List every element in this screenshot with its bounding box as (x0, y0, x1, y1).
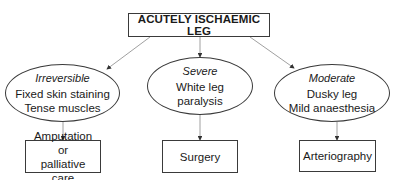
action-box-arteriography: Arteriography (299, 140, 376, 172)
title-box: ACUTELY ISCHAEMIC LEG (128, 13, 270, 37)
category-label: Moderate (309, 71, 355, 85)
sign-text: Fixed skin staining (15, 87, 110, 101)
oval-severe: Severe White leg paralysis (147, 57, 253, 115)
sign-text: White leg (176, 80, 224, 94)
category-label: Irreversible (35, 71, 89, 85)
action-text: palliative care (29, 157, 97, 181)
title-text: ACUTELY ISCHAEMIC LEG (129, 13, 269, 37)
flowchart: ACUTELY ISCHAEMIC LEG Irreversible Fixed… (0, 0, 399, 180)
sign-text: paralysis (177, 94, 222, 108)
arrow-title-to-moderate (250, 37, 294, 68)
action-text: Surgery (180, 150, 220, 164)
category-label: Severe (183, 64, 218, 78)
arrow-title-to-irreversible (107, 37, 150, 69)
action-text: Arteriography (303, 149, 372, 163)
action-box-amputation: Amputation or palliative care (25, 140, 101, 173)
sign-text: Mild anaesthesia (289, 101, 375, 115)
oval-irreversible: Irreversible Fixed skin staining Tense m… (5, 64, 120, 122)
oval-moderate: Moderate Dusky leg Mild anaesthesia (274, 64, 390, 122)
sign-text: Dusky leg (307, 87, 358, 101)
action-box-surgery: Surgery (162, 140, 238, 173)
sign-text: Tense muscles (24, 101, 100, 115)
action-text: Amputation or (29, 129, 97, 157)
